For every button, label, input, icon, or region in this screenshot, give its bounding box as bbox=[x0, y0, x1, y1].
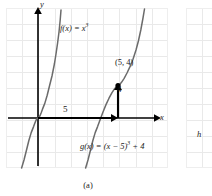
right-plot-border bbox=[186, 8, 212, 168]
figure-caption: (a) bbox=[0, 180, 176, 190]
curve-f-x-cubed bbox=[22, 10, 61, 168]
label-function-f: f(x) = x3 bbox=[60, 24, 88, 33]
right-panel-label: h bbox=[197, 130, 201, 139]
label-vertical-shift: 4 bbox=[117, 85, 122, 94]
label-horizontal-shift: 5 bbox=[63, 105, 68, 114]
label-function-g: g(x) = (x − 5)3 + 4 bbox=[80, 142, 144, 151]
label-point-coordinates: (5, 4) bbox=[115, 58, 133, 67]
y-axis-label: y bbox=[40, 0, 44, 9]
figure-container: f(x) = x3 g(x) = (x − 5)3 + 4 (5, 4) 5 4… bbox=[0, 0, 212, 196]
plot-drawing bbox=[0, 0, 212, 196]
x-axis-label: x bbox=[160, 113, 164, 122]
